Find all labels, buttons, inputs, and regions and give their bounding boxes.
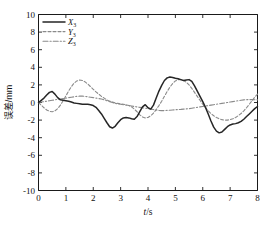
x-tick-label: 2 [91,193,96,203]
y-tick-label: 6 [31,45,36,55]
series-line-X3 [39,77,258,133]
x-tick-label: 5 [173,193,178,203]
x-tick-label: 4 [146,193,151,203]
y-tick-label: -8 [28,168,36,178]
y-tick-label: 2 [31,80,36,90]
series-line-Y3 [39,80,258,120]
axis-titles: t/s误差/mm [3,85,153,217]
legend-label-Z3: Z3 [68,36,76,47]
x-tick-label: 8 [255,193,260,203]
x-tick-label: 1 [64,193,69,203]
axis-ticks: -10-8-6-4-20246810012345678 [23,10,260,203]
chart-figure: -10-8-6-4-20246810012345678 X3Y3Z3 t/s误差… [0,0,271,228]
y-tick-label: -4 [28,133,36,143]
x-tick-label: 7 [228,193,233,203]
chart-legend: X3Y3Z3 [43,17,76,47]
x-axis-title: t/s [144,207,153,217]
y-tick-label: -10 [23,186,35,196]
line-chart: -10-8-6-4-20246810012345678 X3Y3Z3 t/s误差… [0,0,271,228]
x-tick-label: 0 [36,193,41,203]
y-tick-label: 4 [31,62,36,72]
data-series [39,77,258,133]
x-tick-label: 6 [201,193,206,203]
y-tick-label: 10 [26,10,36,20]
y-tick-label: -6 [28,150,36,160]
x-tick-label: 3 [118,193,123,203]
y-tick-label: 8 [31,27,36,37]
y-axis-title: 误差/mm [3,85,14,121]
y-tick-label: 0 [31,98,36,108]
y-tick-label: -2 [28,115,36,125]
